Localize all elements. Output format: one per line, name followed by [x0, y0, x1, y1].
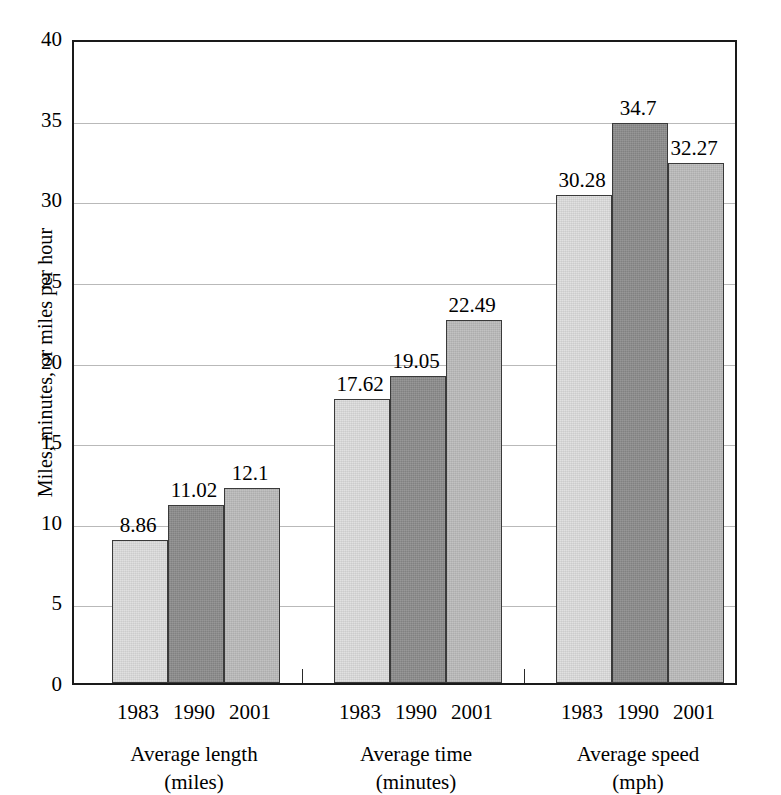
y-axis-tick-label: 10 — [14, 513, 62, 534]
y-axis-tick-label: 35 — [14, 110, 62, 131]
bar — [556, 195, 612, 683]
bar — [668, 163, 724, 683]
bar — [390, 376, 446, 683]
bar-value-label: 8.86 — [86, 515, 190, 536]
group-caption: Average speed(mph) — [494, 740, 781, 795]
bar-value-label: 30.28 — [530, 170, 634, 191]
bar-value-label: 17.62 — [308, 374, 412, 395]
bar — [612, 123, 668, 683]
group-caption-unit: (mph) — [494, 768, 781, 795]
bar-value-label: 34.7 — [586, 98, 690, 119]
y-axis-tick-label: 0 — [14, 674, 62, 695]
bar-value-label: 12.1 — [198, 463, 302, 484]
x-axis-year-label: 2001 — [212, 702, 288, 723]
y-axis-tick-label: 30 — [14, 190, 62, 211]
group-separator-tick — [302, 669, 303, 683]
x-axis-year-label: 2001 — [434, 702, 510, 723]
bar-value-label: 22.49 — [420, 295, 524, 316]
y-axis-tick-label: 20 — [14, 352, 62, 373]
bar-chart: Miles, minutes, or miles per hour 051015… — [0, 0, 781, 795]
bar-value-label: 19.05 — [364, 351, 468, 372]
y-axis-tick-label: 15 — [14, 432, 62, 453]
y-axis-tick-label: 25 — [14, 271, 62, 292]
y-axis-tick-label: 40 — [14, 29, 62, 50]
bar — [446, 320, 502, 683]
y-axis-tick-label: 5 — [14, 593, 62, 614]
x-axis-year-label: 2001 — [656, 702, 732, 723]
bar — [334, 399, 390, 683]
bar — [112, 540, 168, 683]
group-separator-tick — [524, 669, 525, 683]
bar — [224, 488, 280, 683]
bar-value-label: 32.27 — [642, 138, 746, 159]
group-caption-name: Average speed — [494, 740, 781, 768]
